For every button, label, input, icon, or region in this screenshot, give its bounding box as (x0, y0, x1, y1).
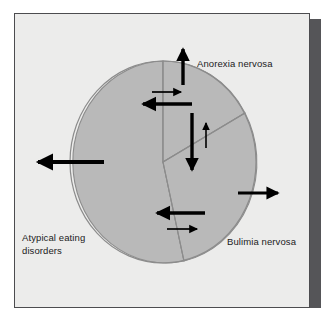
slice-label-anorexia: Anorexia nervosa (197, 58, 273, 71)
pie-diagram-svg (0, 0, 331, 321)
slice-label-atypical: Atypical eating disorders (22, 232, 85, 257)
figure-root: Anorexia nervosa Bulimia nervosa Atypica… (0, 0, 331, 321)
slice-label-bulimia: Bulimia nervosa (227, 236, 296, 249)
